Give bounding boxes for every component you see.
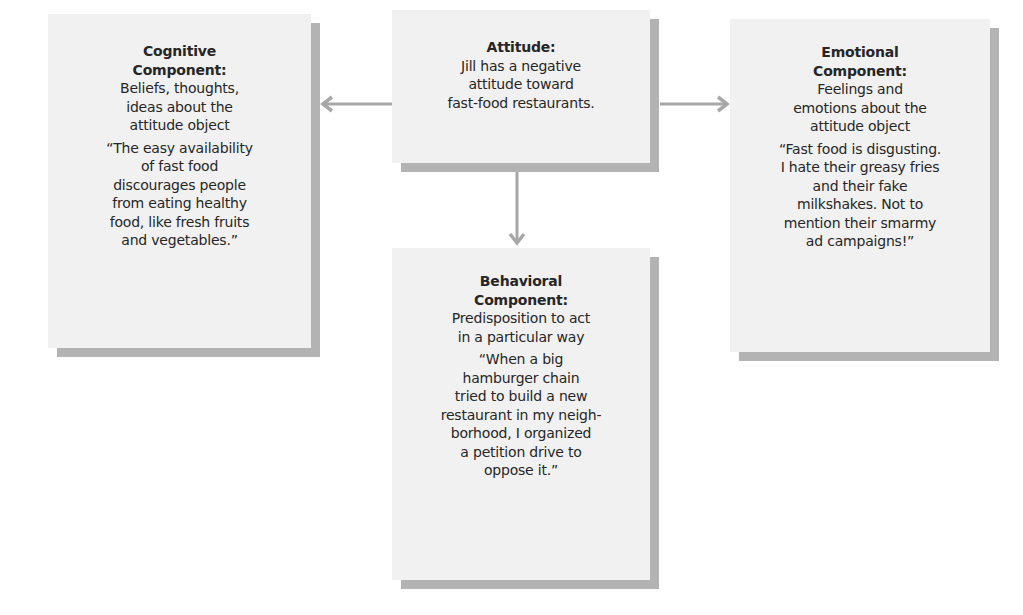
attitude-desc-line: Jill has a negative bbox=[392, 57, 650, 76]
cognitive-description: Beliefs, thoughts, ideas about the attit… bbox=[48, 79, 311, 135]
emotional-quote: “Fast food is disgusting. I hate their g… bbox=[730, 140, 990, 251]
behavioral-quote-line: a petition drive to bbox=[392, 443, 650, 462]
cognitive-title-line: Cognitive bbox=[48, 42, 311, 61]
emotional-desc-line: attitude object bbox=[730, 117, 990, 136]
cognitive-title: Cognitive Component: bbox=[48, 42, 311, 79]
emotional-quote-line: ad campaigns!” bbox=[730, 232, 990, 251]
attitude-desc-line: attitude toward bbox=[392, 75, 650, 94]
emotional-quote-line: and their fake bbox=[730, 177, 990, 196]
cognitive-desc-line: ideas about the bbox=[48, 98, 311, 117]
cognitive-component-box: Cognitive Component: Beliefs, thoughts, … bbox=[48, 14, 311, 348]
behavioral-quote-line: borhood, I organized bbox=[392, 424, 650, 443]
behavioral-quote-line: restaurant in my neigh- bbox=[392, 406, 650, 425]
behavioral-quote: “When a big hamburger chain tried to bui… bbox=[392, 350, 650, 480]
arrow-left-icon bbox=[318, 94, 394, 114]
attitude-box: Attitude: Jill has a negative attitude t… bbox=[392, 10, 650, 163]
cognitive-quote-line: and vegetables.” bbox=[48, 231, 311, 250]
attitude-description: Jill has a negative attitude toward fast… bbox=[392, 57, 650, 113]
cognitive-quote-line: discourages people bbox=[48, 176, 311, 195]
attitude-desc-line: fast-food restaurants. bbox=[392, 94, 650, 113]
behavioral-desc-line: in a particular way bbox=[392, 328, 650, 347]
behavioral-quote-line: “When a big bbox=[392, 350, 650, 369]
emotional-component-box: Emotional Component: Feelings and emotio… bbox=[730, 19, 990, 352]
emotional-title: Emotional Component: bbox=[730, 43, 990, 80]
cognitive-desc-line: attitude object bbox=[48, 116, 311, 135]
emotional-desc-line: emotions about the bbox=[730, 99, 990, 118]
behavioral-title: Behavioral Component: bbox=[392, 272, 650, 309]
behavioral-quote-line: oppose it.” bbox=[392, 461, 650, 480]
behavioral-title-line: Component: bbox=[392, 291, 650, 310]
emotional-title-line: Emotional bbox=[730, 43, 990, 62]
emotional-quote-line: “Fast food is disgusting. bbox=[730, 140, 990, 159]
emotional-desc-line: Feelings and bbox=[730, 80, 990, 99]
attitude-title: Attitude: bbox=[392, 38, 650, 57]
behavioral-quote-line: tried to build a new bbox=[392, 387, 650, 406]
behavioral-title-line: Behavioral bbox=[392, 272, 650, 291]
behavioral-desc-line: Predisposition to act bbox=[392, 309, 650, 328]
emotional-quote-line: I hate their greasy fries bbox=[730, 158, 990, 177]
cognitive-quote-line: from eating healthy bbox=[48, 194, 311, 213]
behavioral-quote-line: hamburger chain bbox=[392, 369, 650, 388]
behavioral-description: Predisposition to act in a particular wa… bbox=[392, 309, 650, 346]
cognitive-quote-line: food, like fresh fruits bbox=[48, 213, 311, 232]
emotional-description: Feelings and emotions about the attitude… bbox=[730, 80, 990, 136]
cognitive-quote-line: of fast food bbox=[48, 157, 311, 176]
cognitive-quote: “The easy availability of fast food disc… bbox=[48, 139, 311, 250]
cognitive-desc-line: Beliefs, thoughts, bbox=[48, 79, 311, 98]
arrow-right-icon bbox=[658, 94, 732, 114]
cognitive-quote-line: “The easy availability bbox=[48, 139, 311, 158]
cognitive-title-line: Component: bbox=[48, 61, 311, 80]
emotional-quote-line: mention their smarmy bbox=[730, 214, 990, 233]
arrow-down-icon bbox=[507, 172, 527, 248]
emotional-quote-line: milkshakes. Not to bbox=[730, 195, 990, 214]
behavioral-component-box: Behavioral Component: Predisposition to … bbox=[392, 248, 650, 580]
emotional-title-line: Component: bbox=[730, 62, 990, 81]
